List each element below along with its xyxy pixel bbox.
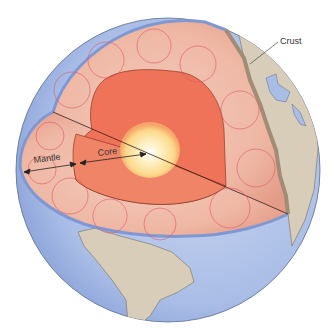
inner-core	[120, 122, 180, 178]
crust-label: Crust	[280, 36, 302, 46]
earth-cutaway-diagram: Mantle Core Crust	[0, 0, 330, 329]
